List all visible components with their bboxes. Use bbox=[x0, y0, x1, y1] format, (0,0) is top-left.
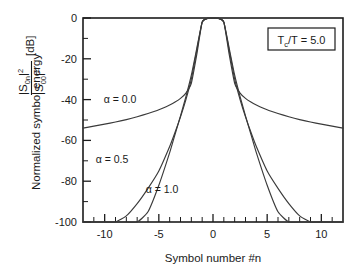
chart-svg: 0 -20 -40 -60 -80 -100 bbox=[0, 0, 361, 278]
y-tick-label: -100 bbox=[55, 216, 77, 228]
den-sub: 00 bbox=[39, 76, 48, 84]
y-tick-label: -20 bbox=[61, 53, 77, 65]
num-sub: 0n bbox=[23, 76, 32, 84]
num-sup: 2 bbox=[16, 69, 25, 73]
x-tick-label: 0 bbox=[210, 228, 216, 240]
x-axis-title-text: Symbol number #n bbox=[165, 252, 262, 264]
chart-figure: 0 -20 -40 -60 -80 -100 bbox=[0, 0, 361, 278]
x-axis-tick-labels: -10 -5 0 5 10 bbox=[97, 228, 328, 240]
y-axis-title-unit: [dB] bbox=[24, 36, 36, 56]
curve-labels: α = 0.0 α = 0.5 α = 1.0 bbox=[96, 93, 179, 195]
curve-label-alpha-1-0: α = 1.0 bbox=[146, 183, 179, 195]
y-axis-tick-labels: 0 -20 -40 -60 -80 -100 bbox=[55, 12, 77, 228]
x-tick-label: 5 bbox=[264, 228, 270, 240]
y-tick-label: -80 bbox=[61, 175, 77, 187]
annotation-box: Tc/T = 5.0 bbox=[268, 28, 335, 50]
x-axis-title: Symbol number #n bbox=[165, 252, 262, 264]
annotation-tc-rest: /T = 5.0 bbox=[288, 34, 325, 46]
den-sup: 2 bbox=[32, 69, 41, 73]
curve-label-alpha-0-5: α = 0.5 bbox=[96, 153, 129, 165]
y-axis-fraction: |S0n|2 |S00|2 bbox=[16, 61, 48, 95]
den-base: |S bbox=[33, 84, 45, 95]
y-tick-label: -40 bbox=[61, 94, 77, 106]
y-tick-label: 0 bbox=[71, 12, 77, 24]
x-tick-label: 10 bbox=[315, 228, 327, 240]
num-base: |S bbox=[17, 84, 29, 95]
x-tick-label: -10 bbox=[97, 228, 113, 240]
x-axis-ticks bbox=[94, 214, 332, 222]
y-axis-title: Normalized symbol energy |S0n|2 |S00|2 [… bbox=[16, 36, 48, 190]
curve-label-alpha-0-0: α = 0.0 bbox=[104, 93, 137, 105]
y-tick-label: -60 bbox=[61, 134, 77, 146]
y-axis-ticks bbox=[83, 18, 91, 222]
x-tick-label: -5 bbox=[154, 228, 164, 240]
